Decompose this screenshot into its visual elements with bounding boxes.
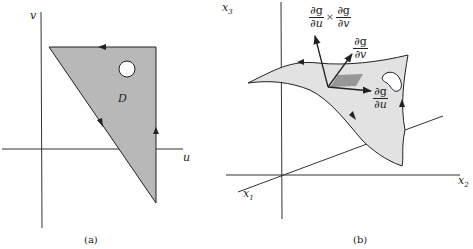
v-axis-label: v [30, 10, 36, 21]
x2-axis-label: x2 [458, 175, 469, 189]
normal-vector-label: ∂g ∂u × ∂g ∂v [309, 5, 351, 29]
dg-du-label: ∂g ∂u [373, 86, 388, 110]
region-label: D [118, 93, 127, 104]
u-axis-label: u [183, 152, 190, 163]
panel-a [2, 12, 183, 228]
x3-axis-label: x3 [222, 2, 233, 16]
normal-frac-left: ∂g ∂u [309, 5, 324, 29]
x1-axis-label: x1 [243, 188, 254, 202]
arrow-diagonal-down-icon [97, 118, 103, 127]
normal-frac-right: ∂g ∂v [336, 5, 351, 29]
caption-a: (a) [84, 235, 98, 245]
caption-b: (b) [353, 235, 367, 245]
v-axis [41, 12, 42, 228]
x1-axis-front [238, 141, 375, 192]
diagram-canvas [0, 0, 473, 249]
x3-axis [281, 2, 282, 219]
x1-axis-back [405, 116, 443, 130]
dg-dv-label: ∂g ∂v [353, 36, 368, 60]
cross-product-symbol: × [326, 12, 334, 22]
panel-b [226, 2, 460, 219]
region-hole [119, 61, 135, 77]
